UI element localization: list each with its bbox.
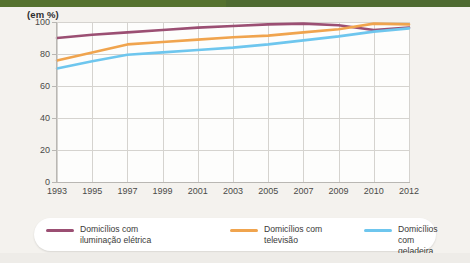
x-axis-line [56,182,410,183]
x-axis-tick-label: 2003 [223,186,243,196]
y-axis-tick-mark [52,118,56,119]
page-bottom-edge [0,253,470,263]
y-axis-tick-label: 20 [22,145,50,155]
y-axis-tick-label: 0 [22,177,50,187]
x-axis-tick-label: 2009 [329,186,349,196]
legend-color-swatch [230,229,258,232]
top-green-band [0,0,470,7]
x-axis-tick-label: 2001 [188,186,208,196]
x-axis-tick-label: 2012 [399,186,419,196]
y-axis-tick-label: 40 [22,113,50,123]
x-axis-tick-label: 1995 [82,186,102,196]
x-axis-tick-label: 1997 [117,186,137,196]
y-axis-tick-mark [52,150,56,151]
y-axis-tick-mark [52,54,56,55]
legend-label: Domicílios com televisão [264,224,322,246]
gridline-vertical [409,22,410,182]
y-axis-tick-mark [52,86,56,87]
chart-legend: Domicílios com iluminação elétricaDomicí… [34,218,436,251]
y-axis-tick-label: 60 [22,81,50,91]
y-axis-tick-label: 80 [22,49,50,59]
y-axis-line [56,22,57,183]
legend-label: Domicílios com iluminação elétrica [80,224,151,246]
x-axis-tick-label: 1999 [153,186,173,196]
y-axis-tick-mark [52,182,56,183]
x-axis-tick-label: 2010 [364,186,384,196]
series-line [57,24,409,61]
plot-area [57,22,409,182]
legend-color-swatch [46,229,74,232]
chart-page: (em %) 020406080100 19931995199719992001… [0,0,470,263]
y-axis-tick-label: 100 [22,17,50,27]
x-axis-tick-label: 2005 [258,186,278,196]
legend-item[interactable]: Domicílios com televisão [230,224,322,246]
legend-color-swatch [364,229,392,232]
top-green-band-inner [0,0,226,7]
legend-item[interactable]: Domicílios com iluminação elétrica [46,224,151,246]
series-lines [57,22,409,182]
x-axis-tick-label: 2007 [293,186,313,196]
x-axis-tick-label: 1993 [47,186,67,196]
y-axis-tick-mark [52,22,56,23]
